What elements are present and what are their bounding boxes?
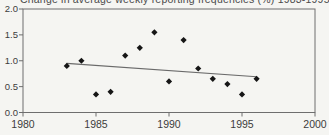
data-point-diamond [224,81,230,87]
y-tick-label: 0.5 [5,81,18,92]
data-point-diamond [78,58,84,64]
x-tick-label: 1995 [230,118,254,130]
x-tick-label: 1985 [84,118,108,130]
data-point-diamond [122,52,128,58]
data-point-diamond [108,89,114,95]
data-point-diamond [166,78,172,84]
plot-area: 0.00.51.01.52.019801985199019952000 [0,0,329,135]
x-tick-label: 2000 [303,118,327,130]
data-point-diamond [137,45,143,51]
chart-figure: Change in average weekly reporting frequ… [0,0,329,135]
data-point-diamond [93,91,99,97]
data-point-diamond [210,76,216,82]
y-tick-label: 0.0 [5,107,18,118]
y-tick-label: 1.0 [5,55,18,66]
y-tick-label: 1.5 [5,29,18,40]
x-tick-label: 1980 [11,118,35,130]
x-tick-label: 1990 [157,118,181,130]
data-point-diamond [181,37,187,43]
plot-frame [23,9,315,113]
data-point-diamond [195,65,201,71]
trend-line [67,63,257,76]
data-point-diamond [151,29,157,35]
data-point-diamond [239,91,245,97]
y-tick-label: 2.0 [5,3,18,14]
